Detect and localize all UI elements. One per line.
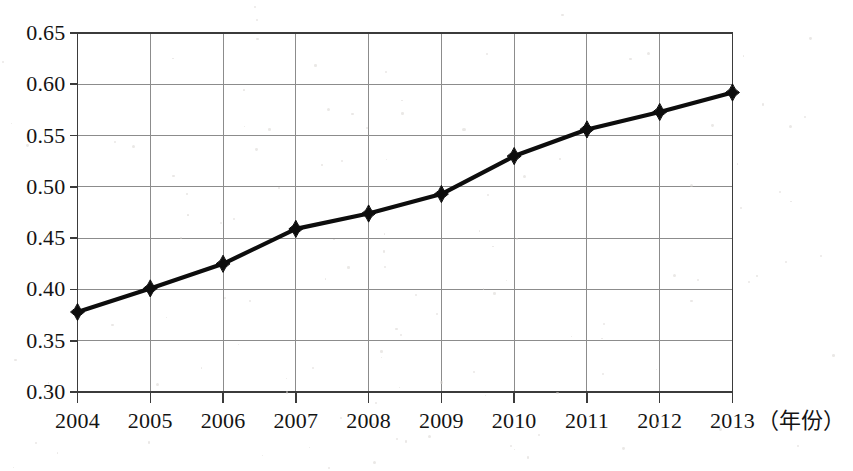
vertical-gridlines [78,33,733,392]
series-line [78,92,733,312]
x-axis-tick-label: 2009 [405,410,477,432]
data-point-marker [726,84,740,101]
y-axis-tick-label: 0.65 [26,22,65,44]
x-axis-tick-label: 2006 [187,410,259,432]
y-axis-ticks [70,33,78,392]
y-axis-tick-label: 0.40 [26,278,65,300]
data-point-marker [653,103,667,120]
y-axis-tick-label: 0.45 [26,227,65,249]
x-axis-tick-label: 2007 [260,410,332,432]
x-axis-tick-label: 2012 [624,410,696,432]
y-axis-tick-label: 0.30 [26,381,65,403]
x-axis-unit-label: （年份） [757,410,846,432]
data-point-marker [362,205,376,222]
horizontal-gridlines [78,33,733,392]
data-point-marker [143,280,157,297]
plot-frame [78,33,733,392]
plot-border [78,33,733,392]
x-axis-tick-label: 2005 [114,410,186,432]
x-axis-tick-label: 2010 [478,410,550,432]
x-axis-tick-label: 2004 [42,410,114,432]
chart-canvas [0,0,853,471]
x-axis-tick-label: 2008 [333,410,405,432]
y-axis-tick-label: 0.50 [26,176,65,198]
data-point-marker [289,220,303,237]
line-chart: 0.650.600.550.500.450.400.350.30 2004200… [0,0,853,471]
y-axis-tick-label: 0.35 [26,330,65,352]
data-point-marker [434,185,448,202]
x-axis-ticks [78,392,733,403]
y-axis-tick-label: 0.55 [26,125,65,147]
x-axis-tick-label: 2011 [551,410,623,432]
data-point-marker [507,147,521,164]
y-axis-tick-label: 0.60 [26,73,65,95]
data-point-marker [216,255,230,272]
data-point-marker [71,303,85,320]
data-line-series [78,92,733,312]
